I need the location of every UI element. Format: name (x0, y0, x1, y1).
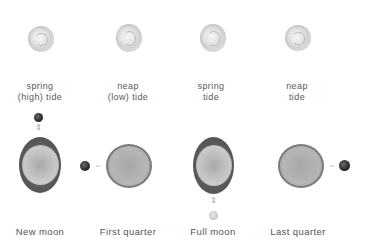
tide-label-line1: neap (257, 81, 337, 92)
tide-label-spring: spring tide (171, 81, 251, 103)
tide-label-line2: (high) tide (0, 92, 80, 103)
sun-icon (116, 24, 142, 52)
tide-label-neap-low: neap (low) tide (88, 81, 168, 103)
sun-icon (200, 24, 226, 52)
sun-icon (28, 26, 54, 52)
double-arrow-vertical-icon: ⇕ (209, 197, 218, 205)
phase-label-last-quarter: Last quarter (253, 226, 343, 238)
double-arrow-horizontal-icon: ⇔ (92, 162, 104, 170)
tide-label-line2: (low) tide (88, 92, 168, 103)
tide-label-line2: tide (257, 92, 337, 103)
tide-label-line1: neap (88, 81, 168, 92)
moon-icon (339, 160, 350, 171)
sun-icon (285, 25, 311, 51)
moon-icon (34, 113, 43, 122)
phase-label-first-quarter: First quarter (83, 226, 173, 238)
earth-icon (278, 144, 324, 188)
earth-icon (22, 145, 59, 185)
moon-icon (80, 161, 90, 171)
moon-icon (209, 211, 218, 220)
tide-label-line2: tide (171, 92, 251, 103)
double-arrow-vertical-icon: ⇕ (34, 124, 43, 132)
earth-icon (106, 144, 152, 188)
earth-icon (196, 145, 232, 186)
phase-label-full-moon: Full moon (168, 226, 258, 238)
double-arrow-horizontal-icon: ⇔ (326, 162, 338, 170)
tide-label-spring-high: spring (high) tide (0, 81, 80, 103)
tide-label-line1: spring (171, 81, 251, 92)
tide-label-neap: neap tide (257, 81, 337, 103)
tide-label-line1: spring (0, 81, 80, 92)
phase-label-new-moon: New moon (0, 226, 85, 238)
